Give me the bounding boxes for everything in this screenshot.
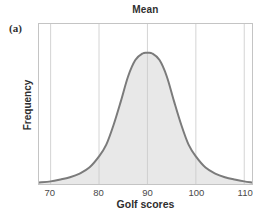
x-tick-label: 110 <box>238 187 253 198</box>
x-axis-ticks: 708090100110 <box>38 187 253 198</box>
panel-label: (a) <box>9 22 22 34</box>
bell-curve-svg <box>39 24 252 184</box>
x-tick-label: 90 <box>142 187 153 198</box>
chart-title: Mean <box>38 4 253 15</box>
plot-area <box>38 23 253 185</box>
x-tick-label: 70 <box>44 187 55 198</box>
x-tick-label: 100 <box>188 187 204 198</box>
distribution-figure: (a) Mean Frequency 708090100110 Golf sco… <box>0 0 271 220</box>
x-tick-label: 80 <box>93 187 104 198</box>
x-axis-label: Golf scores <box>38 198 253 210</box>
curve-fill-area <box>39 53 252 184</box>
y-axis-label: Frequency <box>22 80 33 131</box>
